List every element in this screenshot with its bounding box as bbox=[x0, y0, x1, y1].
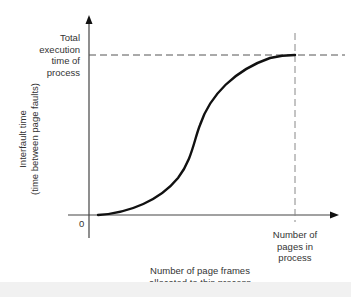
label-line: Number of page frames bbox=[130, 265, 270, 277]
label-line: process bbox=[265, 252, 325, 264]
y-axis-label: Interfault time (time between page fault… bbox=[17, 69, 40, 209]
number-of-pages-label: Number of pages in process bbox=[265, 229, 325, 264]
bottom-band bbox=[0, 282, 351, 297]
label-line: pages in bbox=[265, 241, 325, 253]
label-line: Number of bbox=[265, 229, 325, 241]
x-axis-arrow-icon bbox=[330, 212, 339, 219]
label-line: Total bbox=[22, 32, 80, 44]
y-axis-arrow-icon bbox=[86, 15, 93, 24]
interfault-curve bbox=[98, 55, 295, 215]
label-line: (time between page faults) bbox=[29, 69, 41, 209]
label-line: execution bbox=[22, 44, 80, 56]
label-line: time of bbox=[22, 55, 80, 67]
label-line: Interfault time bbox=[17, 69, 29, 209]
origin-label: 0 bbox=[79, 218, 84, 230]
